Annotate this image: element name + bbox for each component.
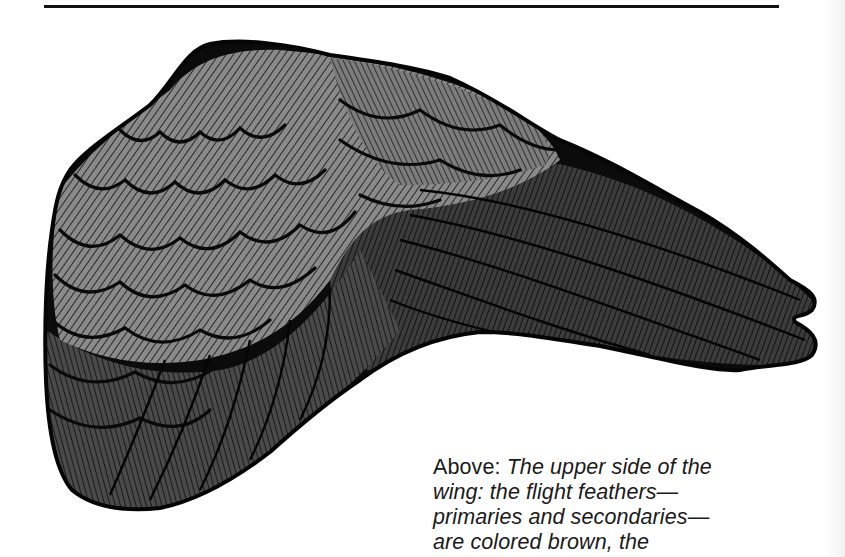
- caption-lead: Above:: [433, 455, 501, 479]
- caption-line-4: are colored brown, the: [433, 530, 833, 555]
- caption-text: The upper side of the: [507, 455, 712, 479]
- caption-line-3: primaries and secondaries—: [433, 505, 833, 530]
- figure-caption: Above: The upper side of the wing: the f…: [433, 455, 833, 555]
- caption-line-2: wing: the flight feathers—: [433, 480, 833, 505]
- caption-line-1: Above: The upper side of the: [433, 455, 833, 480]
